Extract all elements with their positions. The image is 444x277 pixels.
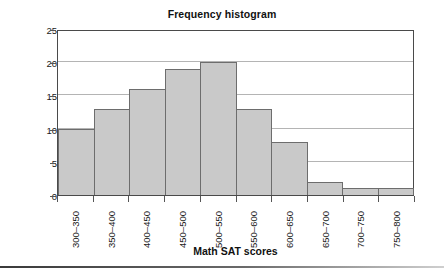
y-axis-ticks: 0510152025 <box>0 0 57 226</box>
y-tick-mark <box>50 130 56 131</box>
histogram-bar <box>271 142 308 195</box>
chart-page: Frequency histogram Frequency 0510152025… <box>0 0 444 277</box>
y-tick-mark <box>50 163 56 164</box>
x-tick-mark <box>414 196 415 202</box>
y-tick-mark <box>50 30 56 31</box>
histogram-bar <box>236 109 273 195</box>
page-bottom-rule <box>0 266 444 268</box>
x-tick-label-cell: 400–450 <box>128 198 164 250</box>
histogram-bar <box>129 89 166 195</box>
y-tick-mark <box>50 63 56 64</box>
x-axis-title: Math SAT scores <box>57 245 414 257</box>
x-tick-label-cell: 450–500 <box>164 198 200 250</box>
x-tick-label-cell: 750–800 <box>378 198 414 250</box>
x-tick-label-cell: 600–650 <box>271 198 307 250</box>
histogram-bar <box>307 182 344 195</box>
y-tick-mark <box>50 196 56 197</box>
x-tick-label-cell: 350–400 <box>93 198 129 250</box>
x-tick-label-cell: 300–350 <box>57 198 93 250</box>
histogram-bar <box>165 69 202 195</box>
x-tick-label-cell: 700–750 <box>343 198 379 250</box>
plot-area <box>57 30 414 196</box>
x-tick-label-cell: 500–550 <box>200 198 236 250</box>
x-tick-label-cell: 650–700 <box>307 198 343 250</box>
histogram-bar <box>200 62 237 195</box>
histogram-bar <box>94 109 131 195</box>
histogram-bars <box>58 31 413 195</box>
x-axis-tick-labels: 300–350350–400400–450450–500500–550550–6… <box>57 198 414 250</box>
chart-title: Frequency histogram <box>0 8 444 20</box>
histogram-bar <box>58 129 95 195</box>
x-tick-label-cell: 550–600 <box>236 198 272 250</box>
histogram-bar <box>378 188 415 195</box>
y-tick-mark <box>50 96 56 97</box>
histogram-bar <box>342 188 379 195</box>
